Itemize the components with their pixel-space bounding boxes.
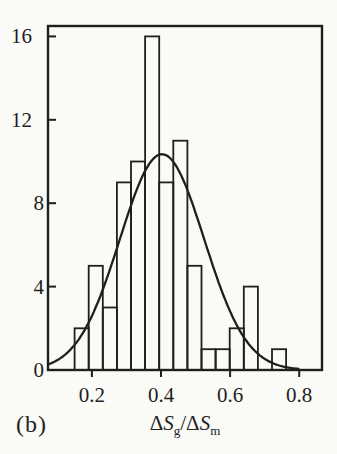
entropy-symbol-g: S xyxy=(163,411,174,435)
histogram-bar xyxy=(244,287,258,370)
histogram-bar xyxy=(187,266,201,370)
y-tick-label: 12 xyxy=(11,108,32,132)
histogram-bar xyxy=(131,162,145,371)
x-tick-label: 0.2 xyxy=(79,383,105,407)
histogram-bar xyxy=(159,182,173,370)
histogram-bar xyxy=(145,36,159,370)
y-tick-label: 4 xyxy=(34,275,45,299)
histogram-bar xyxy=(216,349,230,370)
histogram-bar xyxy=(202,349,216,370)
x-axis-label: ΔSg/ΔSm xyxy=(48,411,322,436)
panel-label: (b) xyxy=(16,411,47,438)
entropy-symbol-m: S xyxy=(200,411,211,435)
x-tick-label: 0.6 xyxy=(217,383,243,407)
delta-symbol: Δ xyxy=(186,411,200,435)
x-tick-label: 0.4 xyxy=(148,383,175,407)
y-tick-label: 16 xyxy=(11,24,32,48)
y-tick-label: 8 xyxy=(34,191,45,215)
histogram-plot: 0.20.40.60.80481216 xyxy=(0,0,337,454)
x-tick-label: 0.8 xyxy=(286,383,312,407)
histogram-bar xyxy=(103,308,117,371)
y-tick-label: 0 xyxy=(34,358,45,382)
subscript-m: m xyxy=(210,423,220,438)
figure-page: 0.20.40.60.80481216 (b) ΔSg/ΔSm xyxy=(0,0,337,454)
delta-symbol: Δ xyxy=(150,411,164,435)
